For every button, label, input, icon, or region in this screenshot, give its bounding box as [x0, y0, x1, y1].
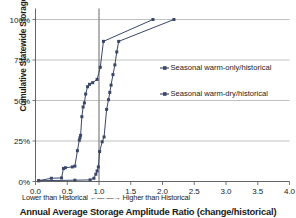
- legend-swatch-marker-1: [163, 92, 167, 96]
- y-axis-tick-label: 25%: [14, 137, 30, 146]
- data-point-marker: [117, 40, 120, 43]
- data-point-marker: [64, 166, 67, 169]
- axis-note-higher: Higher than Historical: [123, 193, 190, 202]
- legend-swatch-marker-0: [163, 66, 167, 70]
- legend: Seasonal warm-only/historicalSeasonal wa…: [160, 63, 272, 98]
- x-axis-tick-label: 3.5: [252, 187, 264, 196]
- data-point-marker: [110, 84, 113, 87]
- data-point-marker: [80, 115, 83, 118]
- chart-container: Cumulative Statewide Storage Capacity 0%…: [0, 0, 296, 218]
- data-point-marker: [88, 83, 91, 86]
- data-point-marker: [76, 149, 79, 152]
- data-point-marker: [82, 105, 85, 108]
- series-line-1: [39, 20, 174, 181]
- axis-note-arrow-right: —→: [106, 193, 120, 202]
- x-axis-tick-label: 3.0: [220, 187, 232, 196]
- data-point-marker: [107, 98, 110, 101]
- data-point-marker: [92, 177, 95, 180]
- data-point-marker: [103, 135, 106, 138]
- data-point-marker: [89, 178, 92, 181]
- data-point-marker: [79, 134, 82, 137]
- data-point-marker: [91, 81, 94, 84]
- data-point-marker: [73, 165, 76, 168]
- data-point-marker: [108, 91, 111, 94]
- data-point-marker: [97, 165, 100, 168]
- data-point-marker: [96, 78, 99, 81]
- data-point-marker: [84, 93, 87, 96]
- x-axis-tick-label: 4.0: [284, 187, 296, 196]
- x-axis-tick-label: 2.5: [189, 187, 201, 196]
- data-point-marker: [113, 63, 116, 66]
- data-point-marker: [94, 173, 97, 176]
- data-point-marker: [50, 177, 53, 180]
- legend-label-1: Seasonal warm-dry/historical: [171, 89, 269, 98]
- data-point-marker: [151, 18, 154, 21]
- x-axis-direction-note: Lower than Historical ←— —→ Higher than …: [22, 193, 190, 202]
- gridlines-group: [36, 20, 290, 142]
- data-series-group: [37, 18, 175, 182]
- data-point-marker: [98, 150, 101, 153]
- axis-note-lower: Lower than Historical: [22, 193, 88, 202]
- y-axis-tick-label: 0%: [18, 178, 30, 187]
- y-axis-ticks-group: 0%25%50%75%100%: [10, 16, 36, 187]
- y-axis-tick-label: 50%: [14, 97, 30, 106]
- data-point-marker: [115, 50, 118, 53]
- y-axis-tick-label: 75%: [14, 56, 30, 65]
- data-point-marker: [102, 40, 105, 43]
- data-point-marker: [172, 18, 175, 21]
- legend-label-0: Seasonal warm-only/historical: [171, 63, 272, 72]
- y-axis-tick-label: 100%: [10, 16, 30, 25]
- data-point-marker: [60, 176, 63, 179]
- data-point-marker: [101, 140, 104, 143]
- data-point-marker: [83, 101, 86, 104]
- data-point-marker: [105, 108, 108, 111]
- x-axis-title: Annual Average Storage Amplitude Ratio (…: [0, 206, 296, 217]
- chart-plot-area: 0%25%50%75%100% 0.00.51.01.52.02.53.03.5…: [0, 0, 296, 218]
- data-point-marker: [111, 73, 114, 76]
- axis-note-arrow-left: ←—: [90, 193, 104, 202]
- data-point-marker: [96, 169, 99, 172]
- series-line-0: [39, 20, 153, 181]
- data-point-marker: [99, 66, 102, 69]
